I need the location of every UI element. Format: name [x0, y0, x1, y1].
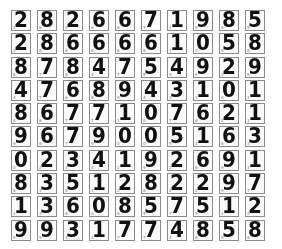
digit-label: 4 — [169, 235, 172, 240]
digit-label: 0 — [143, 118, 146, 123]
digit-label: 0 — [117, 141, 120, 146]
digit-label: 3 — [39, 188, 42, 193]
digit-label: 0 — [143, 141, 146, 146]
digit-label: 1 — [13, 211, 16, 216]
digit-label: 7 — [169, 211, 172, 216]
digit-image-cell: 77 — [63, 103, 83, 124]
digit-label: 7 — [143, 235, 146, 240]
digit-image-cell: 00 — [141, 103, 161, 124]
digit-image-cell: 77 — [141, 220, 161, 241]
digit-image-cell: 66 — [37, 126, 57, 147]
digit-image-cell: 00 — [193, 33, 213, 54]
digit-label: 1 — [247, 95, 250, 100]
digit-image-cell: 66 — [63, 80, 83, 101]
digit-label: 0 — [91, 211, 94, 216]
digit-image-cell: 66 — [115, 33, 135, 54]
digit-image-cell: 77 — [89, 103, 109, 124]
digit-label: 6 — [65, 211, 68, 216]
digit-label: 8 — [91, 95, 94, 100]
digit-image-cell: 77 — [115, 57, 135, 78]
digit-image-cell: 11 — [89, 220, 109, 241]
digit-label: 8 — [13, 72, 16, 77]
digit-image-cell: 66 — [89, 33, 109, 54]
digit-label: 6 — [195, 118, 198, 123]
digit-label: 7 — [247, 188, 250, 193]
digit-image-cell: 11 — [115, 150, 135, 171]
digit-image-cell: 44 — [167, 220, 187, 241]
digit-label: 9 — [221, 188, 224, 193]
digit-image-cell: 22 — [115, 173, 135, 194]
digit-image-cell: 66 — [37, 103, 57, 124]
digit-image-cell: 99 — [141, 150, 161, 171]
digit-label: 9 — [221, 165, 224, 170]
digit-label: 7 — [91, 118, 94, 123]
digit-label: 0 — [221, 95, 224, 100]
digit-label: 9 — [13, 235, 16, 240]
digit-label: 1 — [247, 118, 250, 123]
digit-image-cell: 99 — [219, 173, 239, 194]
digit-label: 7 — [65, 141, 68, 146]
digit-label: 8 — [65, 72, 68, 77]
digit-label: 3 — [65, 235, 68, 240]
digit-image-cell: 88 — [37, 10, 57, 31]
digit-label: 1 — [91, 235, 94, 240]
digit-image-grid: 2288226666771199885522886666666611005588… — [11, 10, 265, 241]
digit-image-cell: 88 — [193, 220, 213, 241]
digit-image-cell: 88 — [115, 196, 135, 217]
digit-label: 7 — [39, 72, 42, 77]
digit-image-cell: 44 — [141, 80, 161, 101]
digit-image-cell: 00 — [89, 196, 109, 217]
digit-label: 5 — [65, 188, 68, 193]
digit-label: 8 — [221, 25, 224, 30]
digit-label: 5 — [221, 48, 224, 53]
digit-image-cell: 77 — [141, 10, 161, 31]
digit-image-cell: 77 — [37, 57, 57, 78]
digit-label: 9 — [247, 72, 250, 77]
digit-image-cell: 99 — [193, 57, 213, 78]
digit-label: 3 — [65, 165, 68, 170]
digit-image-cell: 88 — [11, 57, 31, 78]
digit-label: 1 — [247, 165, 250, 170]
digit-image-cell: 11 — [167, 33, 187, 54]
digit-image-cell: 66 — [141, 33, 161, 54]
digit-image-cell: 99 — [193, 10, 213, 31]
digit-image-cell: 66 — [63, 196, 83, 217]
digit-image-cell: 11 — [245, 150, 265, 171]
digit-image-cell: 11 — [193, 80, 213, 101]
digit-label: 1 — [195, 95, 198, 100]
digit-image-cell: 11 — [245, 103, 265, 124]
digit-image-cell: 66 — [193, 150, 213, 171]
digit-label: 8 — [247, 48, 250, 53]
digit-label: 7 — [117, 72, 120, 77]
digit-image-cell: 44 — [89, 150, 109, 171]
digit-label: 2 — [221, 72, 224, 77]
digit-image-cell: 88 — [219, 10, 239, 31]
digit-label: 1 — [169, 48, 172, 53]
digit-label: 6 — [221, 141, 224, 146]
digit-image-cell: 77 — [37, 80, 57, 101]
digit-image-cell: 99 — [115, 80, 135, 101]
digit-label: 6 — [39, 118, 42, 123]
digit-label: 8 — [117, 211, 120, 216]
digit-image-cell: 11 — [11, 196, 31, 217]
digit-label: 2 — [117, 188, 120, 193]
digit-image-cell: 00 — [11, 150, 31, 171]
digit-label: 7 — [117, 235, 120, 240]
digit-label: 8 — [195, 235, 198, 240]
digit-label: 1 — [195, 141, 198, 146]
digit-image-cell: 33 — [37, 173, 57, 194]
digit-label: 4 — [169, 72, 172, 77]
digit-image-cell: 77 — [167, 103, 187, 124]
digit-label: 6 — [91, 25, 94, 30]
digit-image-cell: 33 — [37, 196, 57, 217]
digit-label: 6 — [39, 141, 42, 146]
digit-label: 1 — [169, 25, 172, 30]
digit-label: 7 — [169, 118, 172, 123]
digit-image-cell: 33 — [167, 80, 187, 101]
digit-label: 6 — [65, 95, 68, 100]
digit-label: 1 — [117, 118, 120, 123]
digit-image-cell: 88 — [37, 33, 57, 54]
digit-label: 3 — [247, 141, 250, 146]
digit-label: 7 — [39, 95, 42, 100]
digit-image-cell: 22 — [167, 173, 187, 194]
